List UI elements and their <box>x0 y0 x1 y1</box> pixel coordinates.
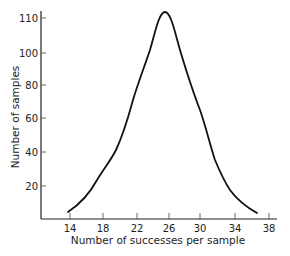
y-tick-label: 60 <box>25 113 38 124</box>
x-tick-label: 18 <box>97 223 110 234</box>
chart: 20 40 60 80 100 110 14 18 22 26 30 34 38… <box>0 0 290 256</box>
y-axis-title: Number of samples <box>9 66 21 169</box>
x-tick-label: 38 <box>263 223 276 234</box>
y-tick-label: 80 <box>25 80 38 91</box>
x-tick-label: 30 <box>194 223 207 234</box>
distribution-curve <box>68 12 257 213</box>
x-tick-label: 22 <box>131 223 144 234</box>
x-tick-labels: 14 18 22 26 30 34 38 <box>64 223 276 234</box>
y-tick-label: 20 <box>25 181 38 192</box>
x-tick-label: 14 <box>64 223 77 234</box>
y-ticks <box>41 18 46 186</box>
y-tick-labels: 20 40 60 80 100 110 <box>19 13 38 192</box>
y-tick-label: 110 <box>19 13 38 24</box>
x-axis-title: Number of successes per sample <box>71 234 245 246</box>
y-tick-label: 100 <box>19 48 38 59</box>
x-tick-label: 34 <box>229 223 242 234</box>
x-tick-label: 26 <box>163 223 176 234</box>
x-ticks <box>70 213 269 219</box>
y-tick-label: 40 <box>25 147 38 158</box>
